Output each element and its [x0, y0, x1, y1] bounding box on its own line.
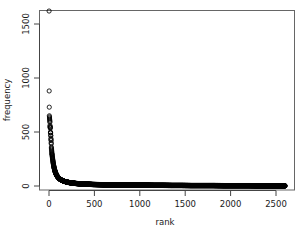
y-tick-label: 1500 — [21, 13, 31, 35]
x-tick-label: 1500 — [174, 199, 196, 209]
x-tick-label: 500 — [86, 199, 102, 209]
x-tick-label: 2000 — [220, 199, 242, 209]
x-tick-label: 2500 — [265, 199, 287, 209]
chart-figure: 050010001500 frequency 05001000150020002… — [0, 0, 306, 242]
x-tick-label: 0 — [46, 199, 51, 209]
x-tick-label: 1000 — [129, 199, 151, 209]
y-tick-label: 1000 — [21, 67, 31, 89]
y-tick-label: 500 — [21, 124, 31, 140]
rank-frequency-scatter-plot: 050010001500 frequency 05001000150020002… — [0, 0, 306, 242]
y-axis-title: frequency — [2, 79, 12, 122]
x-axis-title: rank — [155, 217, 174, 227]
y-tick-label: 0 — [21, 183, 31, 188]
